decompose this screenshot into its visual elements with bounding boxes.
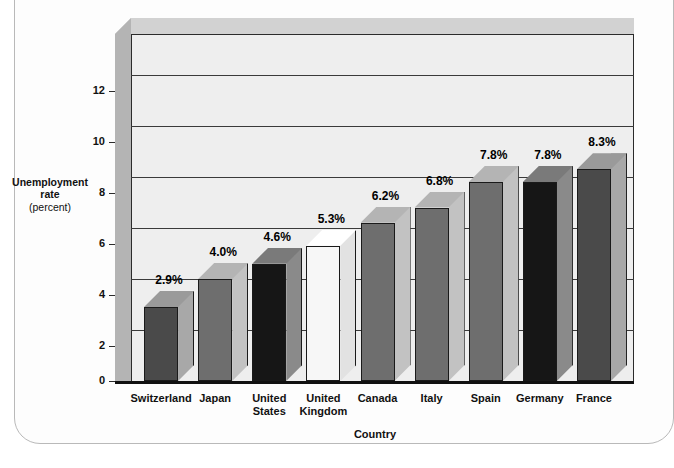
bar-front-face	[198, 279, 232, 381]
y-axis-title-sub: (percent)	[2, 201, 98, 213]
y-axis-tick-label: 2	[71, 339, 105, 351]
bar-front-face	[523, 182, 557, 381]
bar-value-label: 8.3%	[572, 135, 632, 149]
bar[interactable]	[144, 291, 194, 381]
bar-value-label: 6.2%	[356, 189, 416, 203]
bar[interactable]	[415, 192, 465, 382]
y-axis-tick-label: 10	[71, 135, 105, 147]
gridline	[131, 126, 634, 127]
bar-side-face	[395, 207, 411, 381]
bar-side-face	[503, 166, 519, 381]
y-axis-tick	[109, 244, 115, 245]
bar-side-face	[611, 153, 627, 381]
bar-value-label: 4.6%	[247, 230, 307, 244]
bar-value-label: 5.3%	[301, 212, 361, 226]
x-axis-baseline	[115, 381, 634, 384]
y-axis-tick	[109, 142, 115, 143]
y-axis-tick-label: 12	[71, 84, 105, 96]
bar-side-face	[232, 263, 248, 381]
bar-value-label: 7.8%	[518, 148, 578, 162]
bar-value-label: 7.8%	[464, 148, 524, 162]
bar-value-label: 6.8%	[410, 174, 470, 188]
y-axis-tick	[109, 193, 115, 194]
bar-side-face	[340, 230, 356, 381]
y-axis-title: Unemployment rate (percent)	[2, 176, 98, 213]
y-axis-tick-label: 0	[71, 374, 105, 386]
plot-wall-top	[115, 18, 634, 34]
bar[interactable]	[469, 166, 519, 381]
y-axis-tick	[109, 91, 115, 92]
bar[interactable]	[523, 166, 573, 381]
bar-front-face	[306, 246, 340, 381]
bar-front-face	[361, 223, 395, 381]
bar-front-face	[252, 264, 286, 381]
y-axis-tick	[109, 346, 115, 347]
bar-front-face	[144, 307, 178, 381]
bar[interactable]	[198, 263, 248, 381]
bar[interactable]	[306, 230, 356, 381]
bar-front-face	[577, 169, 611, 381]
y-axis-title-main: Unemployment rate	[2, 176, 98, 201]
bar[interactable]	[361, 207, 411, 381]
bar[interactable]	[577, 153, 627, 381]
bar-front-face	[469, 182, 503, 381]
x-axis-title: Country	[315, 428, 435, 440]
bar[interactable]	[252, 248, 302, 381]
gridline	[131, 75, 634, 76]
bar-side-face	[557, 166, 573, 381]
bar-value-label: 4.0%	[193, 245, 253, 259]
y-axis-tick	[109, 295, 115, 296]
y-axis-tick-label: 6	[71, 237, 105, 249]
bar-side-face	[449, 192, 465, 382]
bar-value-label: 2.9%	[139, 273, 199, 287]
y-axis-tick-label: 4	[71, 288, 105, 300]
bar-front-face	[415, 208, 449, 382]
x-category-label: France	[555, 392, 633, 405]
bar-side-face	[286, 248, 302, 381]
